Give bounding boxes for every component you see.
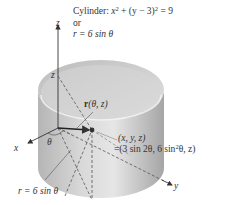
z-axis-label: z — [56, 18, 60, 28]
x-axis-label: x — [14, 143, 18, 153]
polar-equation-label: r = 6 sin θ — [73, 29, 113, 39]
bottom-polar-equation-label: r = 6 sin θ — [18, 186, 58, 196]
y-axis-label: y — [174, 181, 178, 191]
theta-label: θ — [47, 137, 52, 147]
z-height-label: z — [51, 70, 55, 80]
point-coords-label: (x, y, z) — [118, 133, 145, 143]
point-xyz — [90, 128, 95, 133]
cylinder-equation-label: Cylinder: x2 + (y − 3)2 = 9 — [73, 6, 173, 16]
or-label: or — [73, 18, 81, 28]
r-vector-label: r(θ, z) — [84, 99, 108, 109]
cylinder-diagram — [0, 0, 227, 205]
point-param-label: =(3 sin 2θ, 6 sin2θ, z) — [114, 144, 195, 154]
